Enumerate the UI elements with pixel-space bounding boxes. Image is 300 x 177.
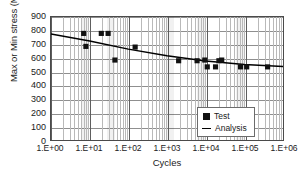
legend-label-test: Test bbox=[214, 111, 230, 121]
data-point-marker bbox=[99, 31, 104, 36]
data-point-marker bbox=[244, 64, 249, 69]
y-tick-label: 800 bbox=[31, 25, 46, 35]
legend-item-test: Test bbox=[201, 110, 251, 122]
data-point-marker bbox=[81, 31, 86, 36]
data-point-marker bbox=[112, 57, 117, 62]
x-tick-label: 1.E+01 bbox=[75, 143, 102, 153]
data-point-marker bbox=[176, 58, 181, 63]
line-marker-icon bbox=[202, 128, 211, 129]
x-axis-tick-labels: 1.E+001.E+011.E+021.E+031.E+041.E+051.E+… bbox=[0, 143, 300, 157]
y-tick-label: 200 bbox=[31, 108, 46, 118]
x-axis-title: Cycles bbox=[50, 157, 284, 168]
analysis-trend-line bbox=[51, 34, 283, 66]
data-point-marker bbox=[213, 64, 218, 69]
x-tick-label: 1.E+06 bbox=[270, 143, 297, 153]
y-tick-label: 600 bbox=[31, 53, 46, 63]
data-point-marker bbox=[202, 57, 207, 62]
y-tick-label: 400 bbox=[31, 80, 46, 90]
square-marker-icon bbox=[203, 113, 210, 120]
legend-item-analysis: Analysis bbox=[201, 122, 251, 134]
data-point-marker bbox=[83, 44, 88, 49]
gridline-minor-vertical bbox=[283, 17, 284, 140]
data-point-marker bbox=[133, 45, 138, 50]
x-tick-label: 1.E+04 bbox=[192, 143, 219, 153]
x-tick-label: 1.E+00 bbox=[36, 143, 63, 153]
data-point-marker bbox=[265, 64, 270, 69]
y-tick-label: 300 bbox=[31, 94, 46, 104]
y-axis-title: Max or Min stress (MPa) bbox=[8, 0, 19, 97]
y-tick-label: 100 bbox=[31, 122, 46, 132]
data-point-marker bbox=[195, 58, 200, 63]
data-point-marker bbox=[219, 57, 224, 62]
y-tick-label: 700 bbox=[31, 39, 46, 49]
data-point-marker bbox=[205, 64, 210, 69]
legend-label-analysis: Analysis bbox=[215, 123, 247, 133]
x-tick-label: 1.E+03 bbox=[153, 143, 180, 153]
y-tick-label: 900 bbox=[31, 11, 46, 21]
data-point-marker bbox=[238, 64, 243, 69]
x-tick-label: 1.E+02 bbox=[114, 143, 141, 153]
legend: Test Analysis bbox=[197, 107, 255, 137]
x-tick-label: 1.E+05 bbox=[231, 143, 258, 153]
chart-figure: Max or Min stress (MPa) 0100200300400500… bbox=[0, 0, 300, 177]
y-tick-label: 500 bbox=[31, 67, 46, 77]
data-point-marker bbox=[106, 31, 111, 36]
